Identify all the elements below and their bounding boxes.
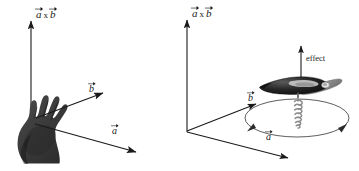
left-vector-b-label: b (89, 84, 94, 94)
left-vector-a-label: a (112, 126, 117, 136)
right-vector-a-label: a (266, 132, 271, 142)
diagram-canvas (0, 0, 359, 171)
cross-operator-left: x (42, 10, 51, 20)
right-vector-a-symbol: a (192, 8, 198, 19)
right-cross-product-label: axb (192, 8, 212, 19)
corkscrew-helix (295, 96, 303, 128)
cross-operator-right: x (198, 9, 207, 19)
right-vector-b-symbol: b (206, 8, 212, 19)
rotation-arrowhead-right (338, 124, 347, 133)
left-vector-a-symbol: a (36, 9, 42, 20)
left-panel-group (18, 21, 136, 164)
hand-silhouette (18, 95, 68, 164)
right-vector-b-arrow (187, 104, 256, 131)
figure-root: axb b a axb b a effect (0, 0, 359, 171)
left-vector-b-symbol: b (50, 9, 56, 20)
effect-label: effect (306, 54, 325, 63)
left-cross-product-label: axb (36, 9, 56, 20)
right-vector-b-label: b (248, 93, 253, 103)
right-vector-a-arrow (187, 132, 288, 158)
corkscrew-body (260, 77, 342, 98)
